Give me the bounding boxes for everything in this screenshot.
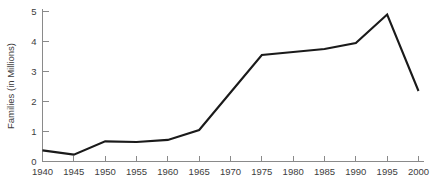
y-axis-label: Families (in Millions) xyxy=(5,43,16,129)
x-tick-label-1945: 1945 xyxy=(63,166,84,177)
y-tick-label-1: 1 xyxy=(31,126,36,137)
x-tick-label-1995: 1995 xyxy=(377,166,398,177)
x-axis xyxy=(43,156,425,162)
x-tick-label-1990: 1990 xyxy=(345,166,366,177)
chart-canvas: 012345 194019451950195519601965197019751… xyxy=(0,0,434,185)
y-tick-group xyxy=(43,12,49,162)
x-tick-label-1970: 1970 xyxy=(220,166,241,177)
x-tick-label-1955: 1955 xyxy=(126,166,147,177)
x-tick-label-1975: 1975 xyxy=(251,166,272,177)
x-tick-label-1940: 1940 xyxy=(32,166,53,177)
y-tick-label-3: 3 xyxy=(31,66,36,77)
y-tick-label-5: 5 xyxy=(31,6,36,17)
x-tick-labels: 1940194519501955196019651970197519801985… xyxy=(32,166,429,177)
y-axis xyxy=(43,9,49,162)
y-tick-label-2: 2 xyxy=(31,96,36,107)
x-tick-label-1950: 1950 xyxy=(95,166,116,177)
x-tick-label-1960: 1960 xyxy=(157,166,178,177)
x-tick-label-2000: 2000 xyxy=(408,166,429,177)
x-tick-label-1980: 1980 xyxy=(283,166,304,177)
data-series-line xyxy=(43,15,419,155)
line-chart: 012345 194019451950195519601965197019751… xyxy=(0,0,434,185)
x-tick-label-1965: 1965 xyxy=(189,166,210,177)
y-tick-label-4: 4 xyxy=(31,36,36,47)
x-tick-label-1985: 1985 xyxy=(314,166,335,177)
x-tick-group xyxy=(43,156,419,162)
y-tick-labels: 012345 xyxy=(31,6,36,167)
